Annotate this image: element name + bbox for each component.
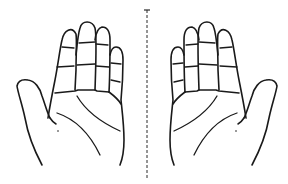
two-palms-diagram: Line drawing of two open palms mirrored … <box>0 0 288 184</box>
symmetry-axis <box>144 10 150 180</box>
left-hand <box>17 22 124 165</box>
right-hand <box>170 22 277 165</box>
diagram-canvas <box>0 0 288 184</box>
